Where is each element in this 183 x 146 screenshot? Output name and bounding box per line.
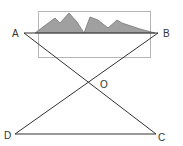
label-C: C [158, 132, 165, 143]
label-A: A [12, 28, 19, 39]
mountain-silhouette [35, 13, 155, 33]
geometry-diagram: A B C D O [0, 0, 183, 146]
label-O: O [100, 79, 108, 90]
label-B: B [163, 28, 170, 39]
label-D: D [4, 130, 11, 141]
